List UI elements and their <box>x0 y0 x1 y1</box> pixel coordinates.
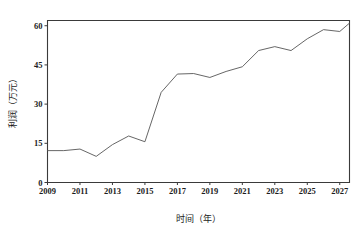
y-axis-title: 利润（万元） <box>7 74 18 128</box>
x-tick-label: 2011 <box>72 186 89 196</box>
x-tick-label: 2023 <box>266 186 283 196</box>
x-tick-label: 2025 <box>299 186 316 196</box>
x-tick-label: 2019 <box>201 186 218 196</box>
chart-svg: 015304560 200920112013201520172019202120… <box>0 0 360 229</box>
x-tick-label: 2017 <box>169 186 187 196</box>
y-tick-label: 45 <box>34 60 43 70</box>
y-tick-label: 15 <box>34 138 43 148</box>
x-tick-label: 2021 <box>234 186 251 196</box>
x-tick-label: 2013 <box>104 186 121 196</box>
x-tick-label: 2015 <box>136 186 153 196</box>
x-tick-label: 2009 <box>39 186 56 196</box>
y-tick-label: 30 <box>34 99 43 109</box>
line-chart: 015304560 200920112013201520172019202120… <box>0 0 360 229</box>
y-tick-label: 60 <box>34 21 43 31</box>
chart-page: 015304560 200920112013201520172019202120… <box>0 0 360 229</box>
x-axis-title: 时间（年） <box>176 213 221 224</box>
x-tick-label: 2027 <box>331 186 349 196</box>
